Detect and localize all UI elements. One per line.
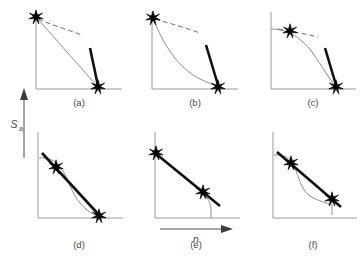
panel-f-axes [273, 132, 357, 218]
x-axis-direction-arrow [221, 225, 233, 233]
panel-b-star-upper [146, 11, 160, 25]
panel-b-thick-segment [206, 45, 218, 85]
panel-a-thick-segment [90, 48, 98, 86]
panel-b-dashed-chord [155, 19, 200, 33]
panel-f-thin-sigmoid-curve [274, 155, 332, 215]
panel-d: (d) [38, 132, 123, 250]
panel-a: (a) [29, 10, 122, 108]
panel-e-thick-straight-line [155, 153, 220, 206]
panel-c: (c) [271, 12, 356, 108]
y-axis-annotation: S a [10, 88, 28, 158]
figure-container: (a) (b) (c) [0, 0, 362, 267]
panel-b-axes [152, 12, 238, 89]
y-axis-label: S [10, 118, 17, 130]
panel-b: (b) [146, 11, 238, 108]
x-axis-label: n [193, 233, 199, 245]
panel-d-axes [38, 132, 123, 218]
panel-c-axes [271, 12, 356, 89]
panel-f: (f) [273, 132, 357, 250]
panel-b-label: (b) [189, 97, 201, 108]
panel-c-thin-sigmoid-curve [271, 29, 336, 87]
panel-d-thin-sigmoid-curve [39, 158, 98, 216]
panel-c-star-lower [329, 80, 343, 94]
figure-svg: (a) (b) (c) [0, 0, 362, 267]
panel-d-thick-straight-chord [42, 153, 100, 216]
panel-a-label: (a) [73, 97, 85, 108]
panel-b-star-lower [211, 80, 225, 94]
y-axis-label-subscript: a [19, 125, 23, 132]
x-axis-annotation: n [160, 225, 233, 245]
panel-a-thin-straight-line [36, 17, 98, 87]
panel-d-label: (d) [73, 239, 85, 250]
panel-e-axes [155, 132, 240, 218]
panel-c-label: (c) [307, 97, 318, 108]
y-axis-direction-arrow [20, 88, 28, 100]
panel-f-label: (f) [309, 239, 318, 250]
